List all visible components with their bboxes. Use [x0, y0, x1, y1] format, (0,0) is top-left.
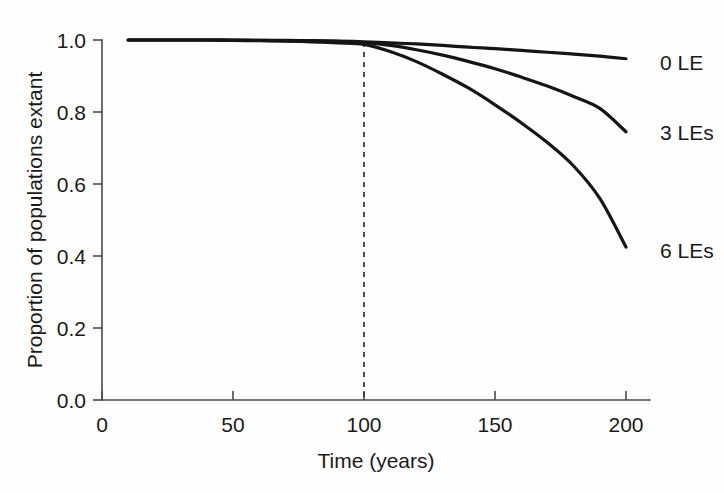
y-axis-ticks [93, 40, 102, 400]
x-tick-label-5: 200 [608, 413, 643, 436]
series-label-3-les: 3 LEs [660, 121, 714, 144]
x-tick-label-1: 0 [96, 413, 108, 436]
x-tick-label-4: 150 [477, 413, 512, 436]
y-tick-label-5: 0.2 [57, 317, 86, 340]
series-curve-6-les [128, 40, 626, 247]
line-chart: 1.0 0.8 0.6 0.4 0.2 0.0 0 50 100 150 200… [0, 0, 724, 493]
y-tick-label-4: 0.4 [57, 245, 87, 268]
figure-canvas: 1.0 0.8 0.6 0.4 0.2 0.0 0 50 100 150 200… [0, 0, 724, 493]
x-tick-label-3: 100 [346, 413, 381, 436]
y-tick-label-6: 0.0 [57, 389, 86, 412]
y-tick-label-3: 0.6 [57, 173, 86, 196]
series-label-6-les: 6 LEs [660, 239, 714, 262]
y-axis-title: Proportion of populations extant [23, 72, 46, 369]
series-label-0-le: 0 LE [660, 51, 703, 74]
x-axis-title: Time (years) [317, 449, 434, 472]
y-tick-label-1: 1.0 [57, 29, 86, 52]
x-tick-label-2: 50 [221, 413, 244, 436]
y-tick-label-2: 0.8 [57, 101, 86, 124]
